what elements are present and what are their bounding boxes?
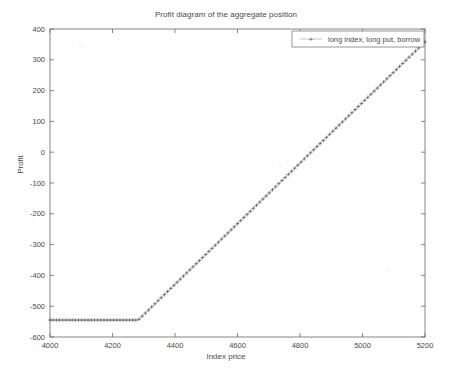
y-tick-label: -400 bbox=[30, 271, 45, 280]
legend[interactable]: + long index, long put, borrow bbox=[292, 31, 424, 47]
x-tick-label: 4200 bbox=[104, 341, 121, 350]
y-tick-label: -200 bbox=[30, 209, 45, 218]
legend-entry-label: long index, long put, borrow bbox=[328, 35, 421, 44]
x-tick-label: 5000 bbox=[354, 341, 371, 350]
data-point-marker bbox=[134, 318, 138, 322]
y-tick-label: -300 bbox=[30, 240, 45, 249]
x-tick-label: 4800 bbox=[292, 341, 309, 350]
y-tick-label: 400 bbox=[32, 25, 45, 34]
y-axis-ticks: -600-500-400-300-200-1000100200300400 bbox=[30, 25, 425, 342]
data-series-markers bbox=[48, 40, 427, 322]
axes-frame bbox=[50, 29, 425, 337]
series-line bbox=[50, 42, 425, 320]
figure-canvas: Profit diagram of the aggregate position… bbox=[0, 0, 452, 376]
y-tick-label: 200 bbox=[32, 86, 45, 95]
x-tick-label: 4000 bbox=[42, 341, 59, 350]
x-tick-label: 4400 bbox=[167, 341, 184, 350]
x-tick-label: 5200 bbox=[417, 341, 434, 350]
x-axis-ticks: 4000420044004600480050005200 bbox=[42, 29, 434, 350]
legend-marker-icon: + bbox=[309, 35, 314, 44]
plot-area: -600-500-400-300-200-1000100200300400 40… bbox=[0, 0, 452, 376]
y-tick-label: 300 bbox=[32, 55, 45, 64]
y-tick-label: 0 bbox=[41, 148, 45, 157]
y-tick-label: -100 bbox=[30, 179, 45, 188]
x-tick-label: 4600 bbox=[229, 341, 246, 350]
y-tick-label: 100 bbox=[32, 117, 45, 126]
y-tick-label: -500 bbox=[30, 302, 45, 311]
